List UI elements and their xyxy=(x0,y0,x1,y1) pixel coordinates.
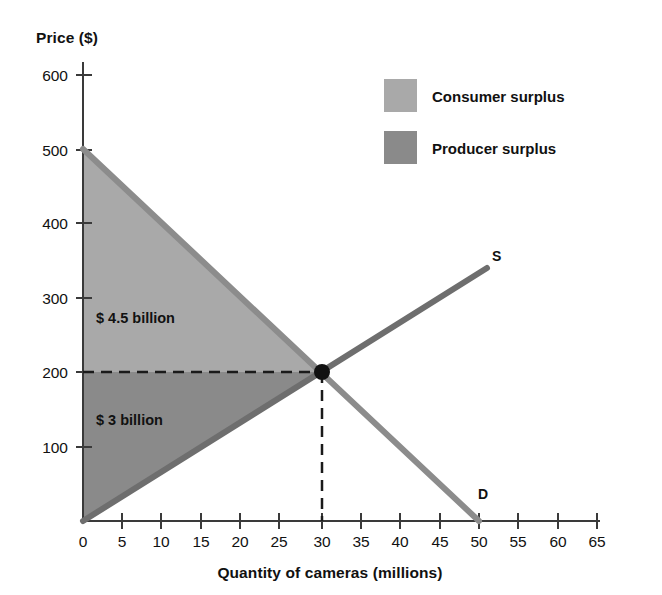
x-tick-label-25: 25 xyxy=(270,533,287,550)
y-tick-label-600: 600 xyxy=(42,67,68,84)
y-axis-title: Price ($) xyxy=(36,29,98,46)
legend-swatch-producer-surplus xyxy=(384,131,417,164)
y-tick-label-100: 100 xyxy=(42,439,68,456)
y-tick-label-200: 200 xyxy=(42,364,68,381)
y-tick-label-400: 400 xyxy=(42,215,68,232)
x-tick-label-20: 20 xyxy=(231,533,249,550)
producer-surplus-value-label: $ 3 billion xyxy=(96,412,163,428)
consumer-surplus-value-label: $ 4.5 billion xyxy=(96,310,175,326)
legend-label-producer-surplus: Producer surplus xyxy=(432,140,556,157)
y-tick-label-500: 500 xyxy=(42,142,68,159)
y-tick-label-300: 300 xyxy=(42,290,68,307)
x-tick-label-5: 5 xyxy=(118,533,127,550)
equilibrium-point-marker xyxy=(314,364,330,380)
x-tick-label-45: 45 xyxy=(431,533,448,550)
legend-swatch-consumer-surplus xyxy=(384,79,417,112)
x-axis-title: Quantity of cameras (millions) xyxy=(217,564,442,581)
x-tick-label-65: 65 xyxy=(588,533,605,550)
legend-label-consumer-surplus: Consumer surplus xyxy=(432,88,565,105)
x-tick-label-35: 35 xyxy=(352,533,369,550)
chart-canvas: Price ($) Quantity of cameras (millions)… xyxy=(0,0,662,595)
chart-legend: Consumer surplus Producer surplus xyxy=(384,79,565,164)
x-tick-label-55: 55 xyxy=(509,533,526,550)
x-tick-label-0: 0 xyxy=(79,533,88,550)
supply-curve-label: S xyxy=(492,248,501,264)
x-tick-label-40: 40 xyxy=(391,533,409,550)
x-tick-label-60: 60 xyxy=(549,533,567,550)
x-tick-label-15: 15 xyxy=(192,533,209,550)
demand-curve-label: D xyxy=(478,486,488,502)
x-tick-label-10: 10 xyxy=(152,533,170,550)
x-tick-label-50: 50 xyxy=(470,533,488,550)
surplus-chart: Price ($) Quantity of cameras (millions)… xyxy=(0,0,662,595)
x-tick-label-30: 30 xyxy=(313,533,331,550)
